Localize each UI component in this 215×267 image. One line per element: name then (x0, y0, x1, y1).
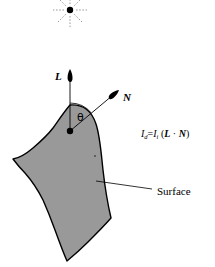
diffuse-reflection-figure: L N θ Id=Ii (L · N) Surface (0, 0, 215, 267)
equation-close-paren: ) (186, 128, 189, 139)
equation-normal-vector: N (179, 128, 186, 139)
diffuse-equation: Id=Ii (L · N) (141, 129, 189, 139)
surface-point (67, 128, 73, 134)
theta-angle-label: θ (77, 112, 84, 123)
equation-light-vector: L (164, 128, 170, 139)
light-vector-arrowhead (68, 69, 73, 82)
equation-dot-operator: · (173, 128, 176, 139)
surface-speck (94, 155, 96, 157)
equation-result-subscript: d (144, 133, 147, 140)
light-source-rays (53, 0, 87, 27)
normal-vector-label: N (123, 92, 131, 103)
surface-callout-label: Surface (157, 186, 191, 197)
shaded-surface (13, 105, 111, 261)
light-source-dot (67, 7, 73, 13)
equation-incident-subscript: i (157, 133, 159, 140)
normal-vector-arrowhead (109, 90, 119, 99)
light-vector-label: L (55, 71, 62, 82)
